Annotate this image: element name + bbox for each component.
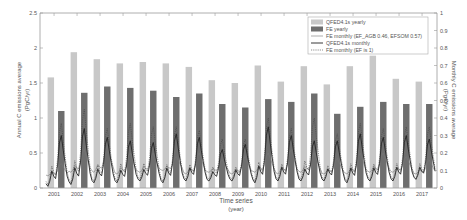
svg-text:0.3: 0.3 bbox=[440, 133, 448, 139]
svg-text:2001: 2001 bbox=[48, 191, 60, 197]
bar-qfed-2012 bbox=[301, 66, 307, 188]
svg-text:1: 1 bbox=[440, 10, 443, 16]
chart: 00.511.522.500.10.20.30.40.50.60.70.80.9… bbox=[0, 0, 467, 220]
svg-text:2010: 2010 bbox=[255, 191, 267, 197]
svg-text:2016: 2016 bbox=[393, 191, 405, 197]
svg-text:0: 0 bbox=[34, 185, 37, 191]
svg-text:0.8: 0.8 bbox=[440, 45, 448, 51]
svg-text:2013: 2013 bbox=[324, 191, 336, 197]
legend-entry-3: QFED4.1s monthly bbox=[326, 40, 370, 46]
y2-axis-label: Monthly C emissions average bbox=[451, 61, 457, 140]
svg-text:2: 2 bbox=[34, 45, 37, 51]
svg-text:2012: 2012 bbox=[301, 191, 313, 197]
y2-axis-unit: (PgC/yr) bbox=[443, 89, 449, 111]
svg-text:2003: 2003 bbox=[94, 191, 106, 197]
bar-qfed-2001 bbox=[48, 77, 54, 188]
svg-text:0.1: 0.1 bbox=[440, 168, 448, 174]
svg-text:2015: 2015 bbox=[370, 191, 382, 197]
bar-fe-2004 bbox=[127, 88, 133, 188]
y-axis-unit: (PgC/yr) bbox=[24, 89, 30, 111]
svg-text:2002: 2002 bbox=[71, 191, 83, 197]
x-axis-label: Time series bbox=[219, 197, 253, 204]
bar-fe-2007 bbox=[196, 94, 202, 189]
svg-text:1.5: 1.5 bbox=[29, 80, 37, 86]
svg-text:2017: 2017 bbox=[416, 191, 428, 197]
svg-text:2006: 2006 bbox=[163, 191, 175, 197]
svg-text:0.2: 0.2 bbox=[440, 150, 448, 156]
svg-text:2.5: 2.5 bbox=[29, 10, 37, 16]
svg-text:2007: 2007 bbox=[186, 191, 198, 197]
svg-text:2004: 2004 bbox=[117, 191, 129, 197]
svg-text:0.5: 0.5 bbox=[29, 150, 37, 156]
svg-text:0.9: 0.9 bbox=[440, 28, 448, 34]
svg-text:0.4: 0.4 bbox=[440, 115, 448, 121]
legend-entry-0: QFED4.1s yearly bbox=[326, 19, 366, 25]
svg-text:2011: 2011 bbox=[278, 191, 290, 197]
legend-entry-1: FE yearly bbox=[326, 26, 348, 32]
legend-entry-2: FE monthly (EF_AGB 0.46, EFSOM 0.57) bbox=[326, 33, 422, 39]
svg-text:0: 0 bbox=[440, 185, 443, 191]
y-axis-label: Annual C emissions average bbox=[16, 61, 22, 138]
plot-area bbox=[46, 52, 435, 188]
svg-text:2014: 2014 bbox=[347, 191, 359, 197]
svg-text:2005: 2005 bbox=[140, 191, 152, 197]
svg-text:1: 1 bbox=[34, 115, 37, 121]
legend-entry-4: FE monthly (EF is 1) bbox=[326, 47, 374, 53]
svg-text:0.7: 0.7 bbox=[440, 63, 448, 69]
legend: QFED4.1s yearlyFE yearlyFE monthly (EF_A… bbox=[308, 17, 428, 54]
x-axis-unit: (year) bbox=[228, 206, 244, 212]
svg-text:0.6: 0.6 bbox=[440, 80, 448, 86]
